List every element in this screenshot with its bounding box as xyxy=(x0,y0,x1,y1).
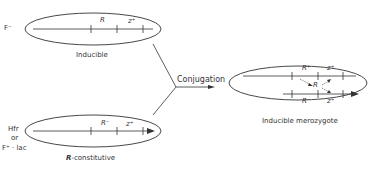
top-cell-caption: Inducible xyxy=(76,52,108,59)
top-strain-label: F⁻ xyxy=(4,25,12,32)
bottom-cell-caption: R-constitutive xyxy=(66,155,115,162)
merozygote-repressor: R xyxy=(313,82,318,89)
conjugation-label: Conjugation xyxy=(177,76,225,84)
merozygote-lower-z: z⁺ xyxy=(327,98,334,105)
bottom-connector xyxy=(153,87,176,115)
top-gene-r: R xyxy=(100,17,105,24)
bottom-gene-z: z⁺ xyxy=(126,121,133,128)
transfer-arrowhead xyxy=(147,128,155,134)
top-connector xyxy=(153,44,176,87)
top-gene-z: z⁺ xyxy=(128,18,135,25)
bottom-strain-label-fprime: F⁺ · lac xyxy=(2,145,26,152)
bottom-strain-label-or: or xyxy=(11,135,18,142)
merozygote-outline xyxy=(229,66,367,100)
conjugation-diagram xyxy=(0,0,376,169)
merozygote-upper-z: z⁺ xyxy=(327,65,334,72)
merozygote-lower-r: R⁻ xyxy=(302,98,311,105)
merozygote-upper-r: R⁺ xyxy=(302,65,311,72)
bottom-gene-r: R⁻ xyxy=(101,120,110,127)
bottom-strain-label-hfr: Hfr xyxy=(8,126,19,133)
merozygote-caption: Inducible merozygote xyxy=(262,118,338,125)
